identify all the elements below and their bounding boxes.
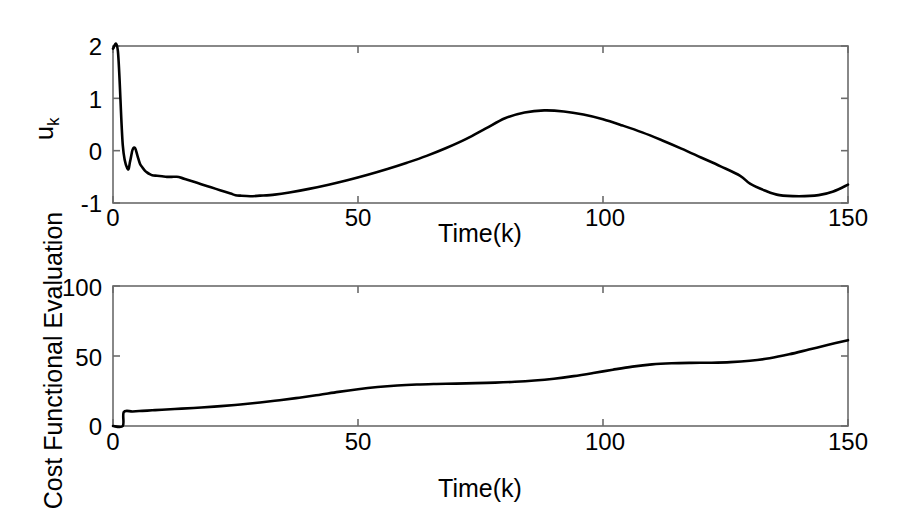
panel-control-signal: uk 2 1 0 -1 0 50 100 150 Time(k) xyxy=(0,0,908,258)
plot-area-cost-functional xyxy=(0,258,908,515)
plot-area-control-signal xyxy=(0,0,908,258)
axis-ticks-upper xyxy=(113,46,848,203)
figure-container: uk 2 1 0 -1 0 50 100 150 Time(k) Cost Fu… xyxy=(0,0,908,515)
data-line-cost xyxy=(113,340,848,427)
axes-upper xyxy=(113,46,848,203)
panel-cost-functional: Cost Functional Evaluation 100 50 0 0 50… xyxy=(0,258,908,515)
data-line-uk xyxy=(113,43,848,196)
